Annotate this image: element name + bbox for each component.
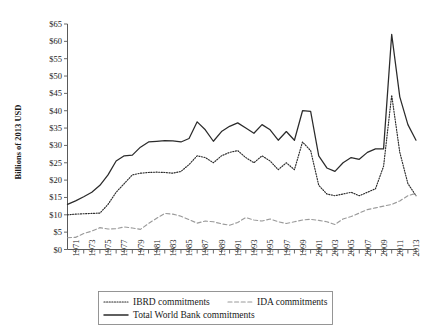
y-tick-label: $30 xyxy=(49,140,62,150)
x-tick-label: 1979 xyxy=(136,240,146,257)
x-tick-label: 1971 xyxy=(71,240,81,257)
series-line-1 xyxy=(68,193,417,237)
x-tick-label: 1985 xyxy=(184,240,194,257)
y-tick-labels: $0$5$10$15$20$25$30$35$40$45$50$55$60$65 xyxy=(49,19,62,255)
chart-figure: Billions of 2013 USD $0$5$10$15$20$25$30… xyxy=(0,0,429,332)
x-tick-label: 2011 xyxy=(395,240,405,257)
y-tick-marks xyxy=(64,24,68,250)
x-tick-label: 1981 xyxy=(152,240,162,257)
y-tick-label: $60 xyxy=(49,36,62,46)
x-tick-label: 2001 xyxy=(314,240,324,257)
y-tick-label: $40 xyxy=(49,106,62,116)
y-tick-label: $65 xyxy=(49,19,62,29)
x-tick-label: 2007 xyxy=(363,240,373,257)
line-chart: Billions of 2013 USD $0$5$10$15$20$25$30… xyxy=(0,0,429,332)
y-axis-title: Billions of 2013 USD xyxy=(13,105,23,180)
x-tick-label: 1983 xyxy=(168,240,178,257)
y-tick-label: $55 xyxy=(49,54,62,64)
y-tick-label: $15 xyxy=(49,192,62,202)
x-tick-label: 1977 xyxy=(119,240,129,257)
series-line-2 xyxy=(68,34,417,204)
x-tick-label: 1997 xyxy=(282,240,292,257)
x-tick-label: 1993 xyxy=(249,240,259,257)
x-tick-label: 1975 xyxy=(103,240,113,257)
legend-label: IDA commitments xyxy=(257,297,328,307)
x-tick-label: 1999 xyxy=(298,240,308,257)
legend-items: IBRD commitmentsIDA commitmentsTotal Wor… xyxy=(104,297,328,320)
y-tick-label: $35 xyxy=(49,123,62,133)
y-tick-label: $0 xyxy=(54,245,63,255)
y-tick-label: $50 xyxy=(49,71,62,81)
y-tick-label: $20 xyxy=(49,175,62,185)
legend-label: IBRD commitments xyxy=(133,297,210,307)
x-tick-label: 2013 xyxy=(411,240,421,257)
x-tick-label: 2005 xyxy=(346,240,356,257)
legend-label: Total World Bank commitments xyxy=(133,310,255,320)
y-tick-label: $5 xyxy=(54,227,63,237)
data-series-group xyxy=(68,34,417,237)
x-tick-label: 1995 xyxy=(265,240,275,257)
x-tick-label: 1991 xyxy=(233,240,243,257)
x-tick-label: 2009 xyxy=(379,240,389,257)
chart-legend: IBRD commitmentsIDA commitmentsTotal Wor… xyxy=(99,292,333,325)
x-tick-labels: 1971197319751977197919811983198519871989… xyxy=(71,240,421,257)
x-tick-label: 1989 xyxy=(217,240,227,257)
y-axis-title-text: Billions of 2013 USD xyxy=(13,105,23,180)
x-tick-label: 1973 xyxy=(87,240,97,257)
y-tick-label: $25 xyxy=(49,158,62,168)
x-tick-label: 1987 xyxy=(200,240,210,257)
y-tick-label: $10 xyxy=(49,210,62,220)
x-tick-label: 2003 xyxy=(330,240,340,257)
y-tick-label: $45 xyxy=(49,88,62,98)
